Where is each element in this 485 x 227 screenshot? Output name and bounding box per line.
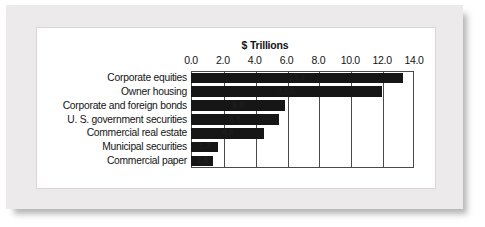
bar-value-label: 5.5: [229, 114, 240, 125]
bar-row: 12.0: [191, 85, 414, 99]
x-tick-label: 14.0: [404, 54, 423, 66]
x-tick-label: 12.0: [373, 54, 392, 66]
bar-row: 1.4: [191, 154, 414, 168]
bar-value-label: 1.4: [196, 155, 207, 166]
bar-row: 13.3: [191, 71, 414, 85]
bar-value-label: 13.3: [289, 72, 305, 83]
x-axis-tick-labels: 0.02.04.06.08.010.012.014.0: [37, 54, 436, 67]
bar-row: 5.5: [191, 113, 414, 127]
category-label: Commercial paper: [37, 154, 187, 168]
bars-layer: 13.312.05.95.54.61.71.4: [191, 71, 414, 168]
bar-value-label: 1.7: [199, 141, 210, 152]
bar-value-label: 4.6: [222, 127, 233, 138]
bar-value-label: 12.0: [279, 86, 295, 97]
bar-row: 5.9: [191, 99, 414, 113]
category-label: Commercial real estate: [37, 126, 187, 140]
chart-figure: $ Trillions 0.02.04.06.08.010.012.014.0 …: [0, 0, 485, 227]
bar-row: 4.6: [191, 126, 414, 140]
bar-row: 1.7: [191, 140, 414, 154]
x-tick-label: 8.0: [312, 54, 326, 66]
x-tick-label: 10.0: [341, 54, 360, 66]
category-label: U. S. government securities: [37, 113, 187, 127]
category-label: Owner housing: [37, 85, 187, 99]
chart-title: $ Trillions: [37, 39, 436, 51]
category-label: Corporate equities: [37, 71, 187, 85]
category-label: Corporate and foreign bonds: [37, 99, 187, 113]
category-label: Municipal securities: [37, 140, 187, 154]
bar-value-label: 5.9: [232, 100, 243, 111]
y-axis-category-labels: Corporate equitiesOwner housingCorporate…: [37, 71, 187, 168]
figure-mat: $ Trillions 0.02.04.06.08.010.012.014.0 …: [6, 5, 463, 209]
x-tick-label: 6.0: [280, 54, 294, 66]
chart-panel: $ Trillions 0.02.04.06.08.010.012.014.0 …: [36, 27, 436, 189]
x-tick-label: 4.0: [248, 54, 262, 66]
x-tick-label: 0.0: [184, 54, 198, 66]
x-tick-label: 2.0: [216, 54, 230, 66]
